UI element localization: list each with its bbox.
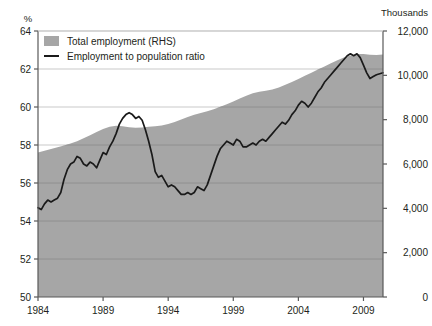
svg-text:62: 62 [20, 64, 32, 75]
svg-text:12,000: 12,000 [397, 26, 428, 37]
svg-text:1994: 1994 [157, 305, 180, 316]
svg-text:4,000: 4,000 [403, 203, 428, 214]
svg-text:52: 52 [20, 254, 32, 265]
svg-text:50: 50 [20, 292, 32, 303]
left-axis-unit-label: % [24, 13, 33, 24]
right-axis-unit-label: Thousands [381, 7, 428, 18]
svg-text:2009: 2009 [352, 305, 375, 316]
legend-label-employment-population-ratio: Employment to population ratio [67, 51, 205, 62]
svg-text:2,000: 2,000 [403, 247, 428, 258]
employment-chart: 5052545658606264 02,0004,0006,0008,00010… [0, 0, 432, 326]
svg-text:60: 60 [20, 102, 32, 113]
svg-text:56: 56 [20, 178, 32, 189]
svg-text:1989: 1989 [92, 305, 115, 316]
svg-text:54: 54 [20, 216, 32, 227]
svg-text:8,000: 8,000 [403, 114, 428, 125]
legend-swatch-total-employment [44, 36, 59, 46]
svg-text:1984: 1984 [27, 305, 50, 316]
legend-label-total-employment: Total employment (RHS) [67, 36, 176, 47]
svg-text:10,000: 10,000 [397, 70, 428, 81]
svg-text:64: 64 [20, 26, 32, 37]
svg-text:58: 58 [20, 140, 32, 151]
svg-text:6,000: 6,000 [403, 159, 428, 170]
svg-text:0: 0 [422, 292, 428, 303]
svg-text:2004: 2004 [287, 305, 310, 316]
svg-text:1999: 1999 [222, 305, 245, 316]
chart-canvas: 5052545658606264 02,0004,0006,0008,00010… [0, 0, 432, 326]
